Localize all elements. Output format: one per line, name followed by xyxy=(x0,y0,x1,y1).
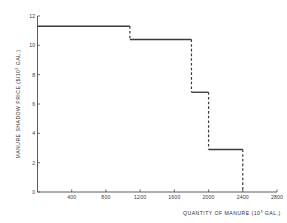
y-tick-label: 12 xyxy=(29,13,35,19)
x-tick-label: 400 xyxy=(67,194,76,200)
y-tick-label: 6 xyxy=(32,101,35,107)
x-tick-label: 1600 xyxy=(168,194,180,200)
svg-text:QUANTITY OF MANURE (103 GAL.): QUANTITY OF MANURE (103 GAL.) xyxy=(183,210,281,216)
svg-text:MANURE SHADOW PRICE ($/103 GAL: MANURE SHADOW PRICE ($/103 GAL.) xyxy=(15,49,21,158)
x-axis-tick-labels: 40080012001600200024002800 xyxy=(67,194,283,200)
y-axis-tick-labels: 024681012 xyxy=(29,13,35,195)
y-axis-title: MANURE SHADOW PRICE ($/103 GAL.) xyxy=(15,49,21,158)
x-tick-label: 800 xyxy=(101,194,110,200)
chart-figure: 40080012001600200024002800 024681012 QUA… xyxy=(0,0,287,223)
step-chart: 40080012001600200024002800 024681012 QUA… xyxy=(0,0,287,223)
shadow-price-step-series xyxy=(38,26,243,192)
y-tick-label: 10 xyxy=(29,42,35,48)
x-tick-label: 2800 xyxy=(271,194,283,200)
y-tick-label: 4 xyxy=(32,130,35,136)
axes xyxy=(38,16,278,192)
x-tick-label: 2400 xyxy=(237,194,249,200)
x-axis-title: QUANTITY OF MANURE (103 GAL.) xyxy=(183,210,281,216)
x-tick-label: 1200 xyxy=(134,194,146,200)
y-tick-label: 0 xyxy=(32,189,35,195)
y-tick-label: 8 xyxy=(32,72,35,78)
x-tick-label: 2000 xyxy=(203,194,215,200)
y-tick-label: 2 xyxy=(32,160,35,166)
